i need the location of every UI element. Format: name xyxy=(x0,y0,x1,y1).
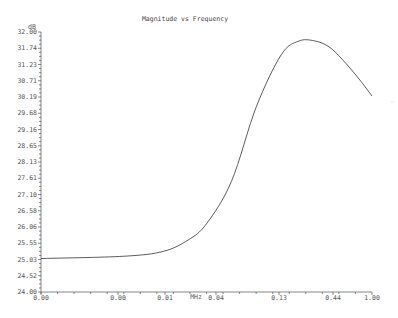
y-tick-label: 25.03 xyxy=(17,256,37,264)
y-tick-label: 27.61 xyxy=(17,174,37,182)
y-tick-label: 26.06 xyxy=(17,223,37,231)
x-tick-label: 0.44 xyxy=(325,294,341,302)
x-unit-label: MHz xyxy=(190,293,202,301)
y-tick-label: 31.74 xyxy=(17,44,37,52)
y-tick-label: 29.16 xyxy=(17,126,37,134)
y-tick-label: 26.58 xyxy=(17,207,37,215)
x-tick-label: 0.00 xyxy=(110,294,126,302)
y-tick-label: 28.13 xyxy=(17,158,37,166)
x-tick-label: 0.13 xyxy=(271,294,287,302)
y-axis: 32.0031.7431.2330.7130.1929.6829.1628.65… xyxy=(17,28,41,296)
y-tick-label: 28.65 xyxy=(17,142,37,150)
magnitude-curve xyxy=(41,40,372,259)
stray-dot xyxy=(391,101,392,102)
y-tick-label: 25.55 xyxy=(17,239,37,247)
x-tick-label: 0.04 xyxy=(208,294,224,302)
x-tick-label: 1.00 xyxy=(364,294,380,302)
x-axis: 0.000.000.010.040.130.441.00 xyxy=(33,292,380,302)
y-tick-label: 30.19 xyxy=(17,93,37,101)
y-tick-label: 32.00 xyxy=(17,28,37,36)
y-tick-label: 27.10 xyxy=(17,191,37,199)
x-tick-label: 0.00 xyxy=(33,294,49,302)
chart-title: Magnitude vs Frequency xyxy=(142,15,228,23)
y-tick-label: 30.71 xyxy=(17,77,37,85)
y-tick-label: 24.52 xyxy=(17,272,37,280)
y-tick-label: 29.68 xyxy=(17,109,37,117)
magnitude-chart: Magnitude vs Frequency dB 32.0031.7431.2… xyxy=(0,0,398,318)
x-tick-label: 0.01 xyxy=(157,294,173,302)
y-tick-label: 31.23 xyxy=(17,61,37,69)
